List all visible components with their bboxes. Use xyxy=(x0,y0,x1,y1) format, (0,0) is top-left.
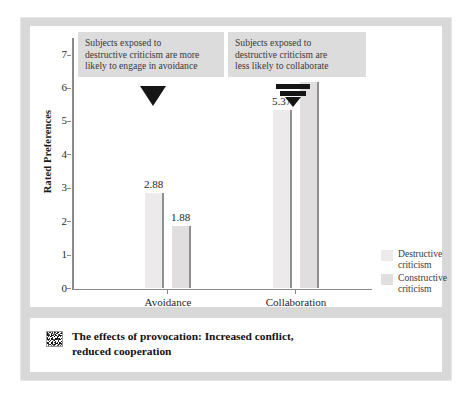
caption-line1: The effects of provocation: Increased co… xyxy=(72,329,434,344)
legend-label-destructive-line2: criticism xyxy=(398,259,443,270)
bar-value-label-1: 2.88 xyxy=(144,178,163,190)
y-tick-5 xyxy=(67,121,71,122)
bar-fill xyxy=(273,110,290,289)
y-tick-label-7: 7 xyxy=(45,49,67,60)
bar-value-label-2: 1.88 xyxy=(171,211,190,223)
y-tick-label-1: 1 xyxy=(45,249,67,260)
bar-fill xyxy=(300,82,317,288)
x-tick-collaboration xyxy=(295,289,296,294)
triangle-down-stacked-marker-right xyxy=(276,84,310,107)
bar-fill xyxy=(172,226,189,289)
bar-edge xyxy=(189,226,191,289)
y-tick-label-0: 0 xyxy=(45,283,67,294)
bar-edge xyxy=(317,82,319,288)
legend-item-constructive: Constructive criticism xyxy=(381,272,443,295)
y-tick-0 xyxy=(67,288,71,289)
y-axis-line xyxy=(72,38,74,290)
bar-collaboration-destructive xyxy=(273,110,290,289)
y-tick-2 xyxy=(67,221,71,222)
legend-item-destructive: Destructive criticism xyxy=(381,248,443,271)
bar-edge xyxy=(162,193,164,289)
y-tick-7 xyxy=(67,55,71,56)
bar-avoidance-constructive xyxy=(172,226,189,289)
callout-right-line1: Subjects exposed to xyxy=(235,37,360,49)
callout-left-line3: likely to engage in avoidance xyxy=(85,60,218,72)
x-axis-line xyxy=(72,289,372,291)
legend-swatch-destructive xyxy=(381,250,393,261)
callout-left: Subjects exposed to destructive criticis… xyxy=(78,32,224,77)
x-tick-avoidance xyxy=(167,289,168,294)
chart-card: 7 6 5 4 3 2 1 0 Rated Preferences 2.88 xyxy=(30,26,442,307)
bar-edge xyxy=(290,110,292,289)
legend-label-constructive-line2: criticism xyxy=(398,283,443,294)
y-tick-label-2: 2 xyxy=(45,216,67,227)
halftone-square-icon xyxy=(46,331,63,347)
y-tick-4 xyxy=(67,154,71,155)
plot-area: 7 6 5 4 3 2 1 0 Rated Preferences 2.88 xyxy=(30,26,442,307)
callout-right: Subjects exposed to destructive criticis… xyxy=(228,32,366,77)
y-axis-title: Rated Preferences xyxy=(42,87,53,217)
triangle-down-marker-left xyxy=(140,86,166,106)
caption-line2: reduced cooperation xyxy=(72,344,434,359)
legend-label-destructive-line1: Destructive xyxy=(398,248,443,259)
figure-root: 7 6 5 4 3 2 1 0 Rated Preferences 2.88 xyxy=(0,0,471,398)
y-tick-1 xyxy=(67,255,71,256)
y-tick-3 xyxy=(67,188,71,189)
callout-left-line1: Subjects exposed to xyxy=(85,37,218,49)
callout-left-line2: destructive criticism are more xyxy=(85,49,218,61)
legend-label-constructive-line1: Constructive xyxy=(398,272,443,283)
x-category-label-avoidance: Avoidance xyxy=(137,296,199,308)
bar-fill xyxy=(145,193,162,289)
bar-collaboration-constructive xyxy=(300,82,317,288)
x-category-label-collaboration: Collaboration xyxy=(260,296,332,308)
caption-card: The effects of provocation: Increased co… xyxy=(30,318,442,372)
bar-avoidance-destructive xyxy=(145,193,162,289)
callout-right-line2: destructive criticism are xyxy=(235,49,360,61)
callout-right-line3: less likely to collaborate xyxy=(235,60,360,72)
legend-swatch-constructive xyxy=(381,274,393,285)
y-tick-6 xyxy=(67,88,71,89)
legend: Destructive criticism Constructive criti… xyxy=(381,248,443,296)
